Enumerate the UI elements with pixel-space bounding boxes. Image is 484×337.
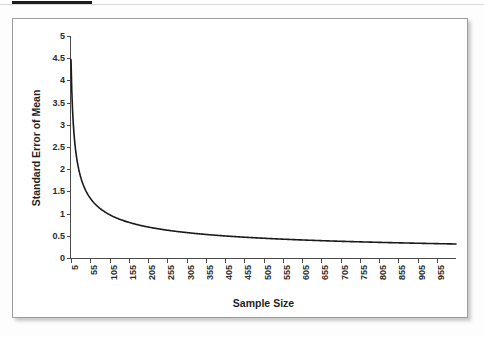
y-tick-label: 4.5 bbox=[52, 54, 65, 63]
y-tick-label: 3 bbox=[60, 120, 65, 129]
x-tick-label: 955 bbox=[436, 265, 445, 280]
y-tick-label: 1 bbox=[60, 209, 65, 218]
x-tick-mark bbox=[71, 259, 72, 263]
x-tick-mark bbox=[148, 259, 149, 263]
plot-area: 54.543.532.521.510.50 555105155205255305… bbox=[71, 36, 456, 258]
x-tick-label: 505 bbox=[263, 265, 272, 280]
y-tick-label: 0.5 bbox=[52, 231, 65, 240]
x-tick-label: 255 bbox=[167, 265, 176, 280]
x-tick-label: 705 bbox=[340, 265, 349, 280]
sem-curve-path bbox=[71, 59, 456, 244]
x-tick-mark bbox=[129, 259, 130, 263]
y-tick-label: 4 bbox=[60, 76, 65, 85]
y-tick-label: 3.5 bbox=[52, 98, 65, 107]
sem-curve-svg bbox=[71, 36, 456, 258]
x-tick-mark bbox=[437, 259, 438, 263]
y-tick-label: 2 bbox=[60, 165, 65, 174]
x-axis-title: Sample Size bbox=[71, 297, 456, 309]
x-tick-mark bbox=[302, 259, 303, 263]
x-tick-mark bbox=[167, 259, 168, 263]
x-tick-label: 205 bbox=[148, 265, 157, 280]
x-tick-label: 605 bbox=[302, 265, 311, 280]
x-tick-mark bbox=[379, 259, 380, 263]
x-tick-mark bbox=[110, 259, 111, 263]
x-tick-mark bbox=[283, 259, 284, 263]
x-tick-mark bbox=[341, 259, 342, 263]
y-tick-label: 0 bbox=[60, 254, 65, 263]
scanned-page-background: Standard Error of Mean Sample Size 54.54… bbox=[0, 0, 484, 337]
x-tick-mark bbox=[398, 259, 399, 263]
x-tick-mark bbox=[321, 259, 322, 263]
y-tick-label: 5 bbox=[60, 32, 65, 41]
x-tick-mark bbox=[225, 259, 226, 263]
x-tick-label: 555 bbox=[282, 265, 291, 280]
page-header-rule bbox=[0, 4, 484, 5]
x-tick-label: 905 bbox=[417, 265, 426, 280]
x-tick-mark bbox=[360, 259, 361, 263]
x-tick-mark bbox=[187, 259, 188, 263]
x-tick-label: 55 bbox=[90, 265, 99, 275]
x-tick-label: 405 bbox=[225, 265, 234, 280]
x-tick-label: 855 bbox=[398, 265, 407, 280]
y-tick-label: 1.5 bbox=[52, 187, 65, 196]
chart-figure-frame: Standard Error of Mean Sample Size 54.54… bbox=[12, 18, 468, 318]
x-tick-mark bbox=[418, 259, 419, 263]
x-tick-label: 105 bbox=[109, 265, 118, 280]
x-tick-label: 5 bbox=[71, 265, 80, 270]
x-tick-label: 655 bbox=[321, 265, 330, 280]
x-tick-mark bbox=[244, 259, 245, 263]
x-tick-mark bbox=[90, 259, 91, 263]
x-tick-label: 805 bbox=[379, 265, 388, 280]
x-tick-mark bbox=[206, 259, 207, 263]
x-tick-label: 305 bbox=[186, 265, 195, 280]
y-axis-title: Standard Error of Mean bbox=[29, 37, 43, 259]
x-tick-label: 155 bbox=[128, 265, 137, 280]
x-tick-mark bbox=[264, 259, 265, 263]
x-tick-label: 755 bbox=[359, 265, 368, 280]
x-tick-label: 455 bbox=[244, 265, 253, 280]
y-tick-label: 2.5 bbox=[52, 143, 65, 152]
x-tick-label: 355 bbox=[205, 265, 214, 280]
